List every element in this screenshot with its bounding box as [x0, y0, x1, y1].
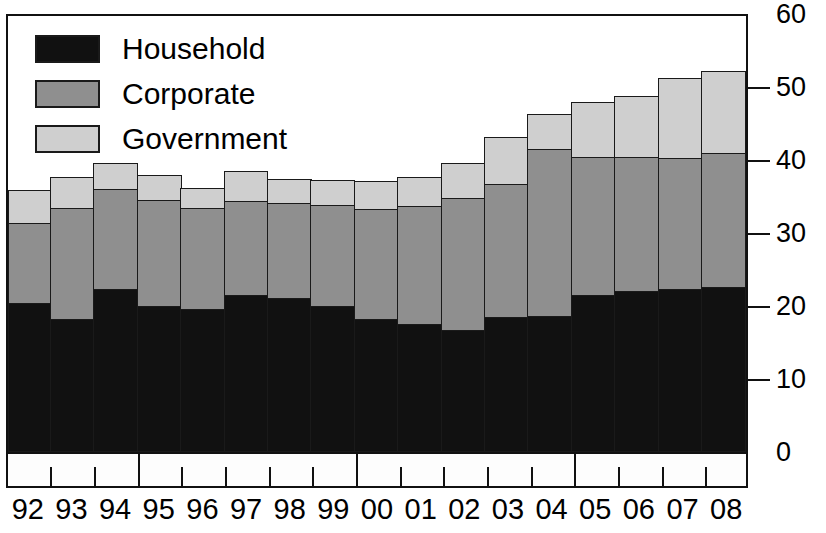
- x-tick-94: [138, 454, 140, 486]
- x-tick-label-97: 97: [230, 492, 262, 526]
- segment-household: [8, 303, 51, 452]
- bar-04: [529, 16, 572, 450]
- bar-stack: [50, 177, 95, 450]
- x-tick-label-08: 08: [710, 492, 742, 526]
- segment-government: [571, 102, 616, 158]
- x-tick-01: [443, 467, 445, 486]
- x-tick-98: [312, 467, 314, 486]
- x-tick-96: [225, 467, 227, 486]
- segment-corporate: [658, 158, 703, 290]
- bar-stack: [267, 179, 312, 450]
- x-axis-strip: [6, 452, 748, 488]
- legend-item-corporate: Corporate: [35, 75, 287, 113]
- x-tick-04: [574, 454, 576, 486]
- segment-corporate: [180, 208, 225, 310]
- segment-corporate: [484, 184, 529, 318]
- segment-household: [267, 298, 312, 451]
- segment-corporate: [224, 201, 269, 297]
- bar-02: [442, 16, 485, 450]
- segment-household: [614, 291, 659, 452]
- bar-00: [355, 16, 398, 450]
- legend-item-government: Government: [35, 120, 287, 158]
- x-tick-label-92: 92: [12, 492, 44, 526]
- y-tick-label-50: 50: [776, 74, 806, 101]
- segment-government: [137, 175, 182, 201]
- x-tick-95: [181, 467, 183, 486]
- segment-household: [180, 309, 225, 451]
- segment-corporate: [267, 203, 312, 299]
- y-tick-label-0: 0: [776, 439, 791, 466]
- x-tick-03: [531, 467, 533, 486]
- x-tick-label-05: 05: [579, 492, 611, 526]
- x-tick-label-98: 98: [274, 492, 306, 526]
- x-tick-label-04: 04: [535, 492, 567, 526]
- bar-06: [616, 16, 659, 450]
- legend-label-household: Household: [122, 34, 265, 64]
- x-tick-93: [94, 467, 96, 486]
- segment-government: [93, 163, 138, 191]
- y-tick-label-60: 60: [776, 1, 806, 28]
- x-tick-label-95: 95: [143, 492, 175, 526]
- segment-household: [137, 306, 182, 452]
- bar-stack: [93, 163, 138, 450]
- x-tick-label-99: 99: [317, 492, 349, 526]
- segment-government: [267, 179, 312, 205]
- bar-stack: [701, 71, 746, 450]
- segment-household: [310, 306, 355, 452]
- segment-household: [701, 287, 746, 452]
- y-tick-30: [748, 233, 770, 235]
- y-tick-label-20: 20: [776, 293, 806, 320]
- y-tick-label-40: 40: [776, 147, 806, 174]
- segment-government: [397, 177, 442, 207]
- bar-stack: [180, 188, 225, 450]
- segment-government: [527, 114, 572, 151]
- segment-government: [8, 190, 51, 224]
- segment-corporate: [397, 206, 442, 326]
- segment-government: [224, 171, 269, 202]
- segment-household: [441, 330, 486, 452]
- x-tick-label-00: 00: [361, 492, 393, 526]
- x-tick-label-07: 07: [666, 492, 698, 526]
- bar-stack: [571, 102, 616, 450]
- legend-label-corporate: Corporate: [122, 79, 255, 109]
- bar-stack: [484, 137, 529, 450]
- segment-household: [50, 319, 95, 452]
- segment-government: [658, 78, 703, 160]
- y-tick-50: [748, 87, 770, 89]
- segment-household: [484, 317, 529, 451]
- segment-household: [527, 316, 572, 451]
- bar-03: [485, 16, 528, 450]
- x-axis-labels: 9293949596979899000102030405060708: [6, 492, 748, 533]
- bar-stack: [441, 163, 486, 450]
- x-tick-label-93: 93: [55, 492, 87, 526]
- x-tick-label-01: 01: [405, 492, 437, 526]
- segment-government: [354, 181, 399, 211]
- x-tick-label-06: 06: [623, 492, 655, 526]
- segment-government: [484, 137, 529, 186]
- legend-swatch-household: [35, 35, 100, 63]
- legend-swatch-corporate: [35, 80, 100, 108]
- segment-corporate: [614, 157, 659, 293]
- x-tick-06: [662, 467, 664, 486]
- bar-stack: [310, 180, 355, 450]
- bar-stack: [224, 171, 269, 450]
- segment-household: [93, 289, 138, 451]
- x-tick-05: [618, 467, 620, 486]
- segment-corporate: [50, 208, 95, 320]
- segment-corporate: [701, 153, 746, 288]
- segment-household: [571, 295, 616, 452]
- segment-corporate: [571, 157, 616, 296]
- x-tick-07: [705, 467, 707, 486]
- x-tick-label-02: 02: [448, 492, 480, 526]
- bar-stack: [137, 175, 182, 450]
- segment-corporate: [354, 209, 399, 321]
- y-tick-10: [748, 379, 770, 381]
- y-tick-label-30: 30: [776, 220, 806, 247]
- segment-government: [614, 96, 659, 158]
- segment-corporate: [93, 189, 138, 290]
- segment-household: [224, 295, 269, 451]
- segment-household: [658, 289, 703, 452]
- x-tick-00: [400, 467, 402, 486]
- bar-stack: [614, 96, 659, 450]
- segment-government: [310, 180, 355, 206]
